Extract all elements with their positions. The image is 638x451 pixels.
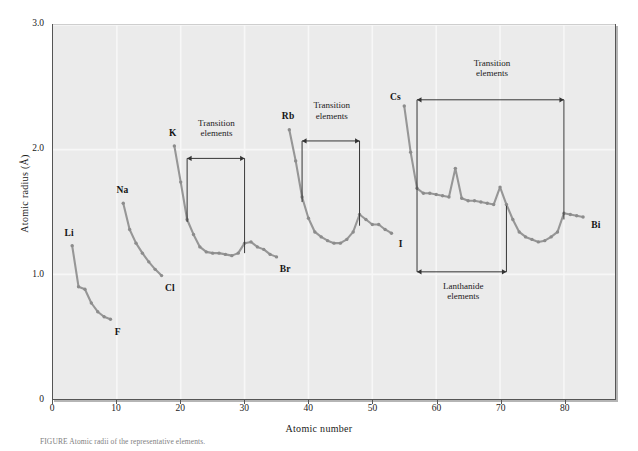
x-tick-mark [372, 400, 373, 404]
plot-area: LiFNaClKBrRbICsBi Transition elementsTra… [52, 24, 616, 400]
x-tick-mark [437, 400, 438, 404]
x-tick-30: 30 [240, 403, 250, 413]
x-tick-mark [52, 400, 53, 404]
annotation-label-transition-elements-period-5: Transition elements [313, 100, 350, 121]
element-label-bi: Bi [591, 220, 600, 230]
x-tick-80: 80 [560, 403, 570, 413]
figure-root: 01.02.03.0 Atomic radius (Å) LiFNaClKBrR… [0, 0, 638, 451]
x-tick-40: 40 [304, 403, 314, 413]
element-label-f: F [115, 327, 121, 337]
y-axis-title: Atomic radius (Å) [19, 124, 30, 264]
x-tick-mark [180, 400, 181, 404]
x-tick-10: 10 [111, 403, 121, 413]
x-tick-60: 60 [432, 403, 442, 413]
y-tick-1.0: 1.0 [32, 269, 44, 279]
element-label-rb: Rb [282, 111, 295, 121]
element-label-k: K [169, 128, 177, 138]
x-tick-mark [308, 400, 309, 404]
element-label-cs: Cs [390, 92, 401, 102]
x-tick-mark [565, 400, 566, 404]
element-label-br: Br [280, 264, 291, 274]
x-tick-mark [116, 400, 117, 404]
element-label-cl: Cl [165, 283, 175, 293]
x-tick-20: 20 [175, 403, 185, 413]
y-tick-3.0: 3.0 [32, 18, 44, 28]
annotation-brackets [53, 25, 615, 399]
element-label-na: Na [116, 185, 128, 195]
x-tick-70: 70 [496, 403, 506, 413]
y-tick-2.0: 2.0 [32, 143, 44, 153]
x-tick-0: 0 [50, 403, 55, 413]
annotation-label-transition-elements-period-4: Transition elements [198, 118, 235, 139]
y-tick-0: 0 [39, 394, 44, 404]
figure-caption: FIGURE Atomic radii of the representativ… [40, 437, 600, 446]
annotation-label-lanthanide-elements: Lanthanide elements [443, 281, 483, 302]
element-label-li: Li [65, 228, 74, 238]
x-tick-50: 50 [368, 403, 378, 413]
x-tick-mark [244, 400, 245, 404]
element-label-i: I [399, 239, 403, 249]
annotation-label-transition-elements-period-6: Transition elements [474, 58, 511, 79]
x-tick-mark [501, 400, 502, 404]
x-axis-title: Atomic number [0, 423, 638, 434]
